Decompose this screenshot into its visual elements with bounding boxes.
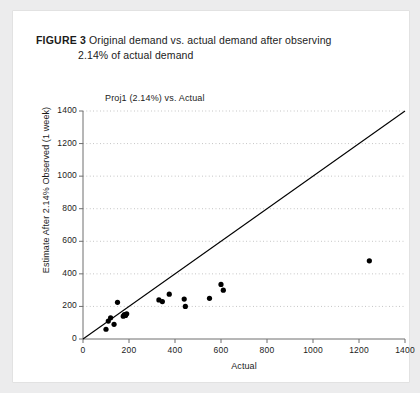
plot-svg	[83, 111, 405, 339]
data-point	[221, 288, 226, 293]
x-tick-label: 1400	[385, 345, 420, 355]
figure-caption: FIGURE 3 Original demand vs. actual dema…	[36, 33, 386, 63]
figure-caption-line2: 2.14% of actual demand	[36, 48, 386, 63]
data-point	[207, 296, 212, 301]
y-tick-label: 1000	[41, 170, 77, 180]
data-point	[115, 300, 120, 305]
data-point	[183, 304, 188, 309]
figure-number: FIGURE 3	[36, 34, 86, 46]
x-tick-label: 600	[201, 345, 241, 355]
data-point	[160, 299, 165, 304]
y-tick-label: 600	[41, 235, 77, 245]
y-tick-label: 0	[41, 333, 77, 343]
x-tick-label: 1000	[293, 345, 333, 355]
y-axis-label: Estimate After 2.14% Observed (1 week)	[41, 85, 51, 295]
data-point	[182, 297, 187, 302]
gridlines	[83, 111, 405, 306]
data-point	[167, 292, 172, 297]
y-tick-label: 200	[41, 300, 77, 310]
x-tick-label: 200	[109, 345, 149, 355]
y-tick-label: 1400	[41, 105, 77, 115]
x-axis-label: Actual	[83, 361, 405, 371]
chart-title: Proj1 (2.14%) vs. Actual	[105, 93, 205, 103]
page-background: FIGURE 3 Original demand vs. actual dema…	[0, 0, 420, 393]
data-point	[367, 258, 372, 263]
y-tick-label: 800	[41, 203, 77, 213]
x-tick-label: 800	[247, 345, 287, 355]
data-point	[111, 322, 116, 327]
x-tick-label: 1200	[339, 345, 379, 355]
plot-area	[83, 111, 405, 339]
data-point	[218, 282, 223, 287]
y-tick-label: 400	[41, 268, 77, 278]
data-point	[108, 315, 113, 320]
x-tick-label: 400	[155, 345, 195, 355]
data-points	[103, 258, 372, 332]
reference-line	[83, 111, 405, 339]
scatter-chart: Proj1 (2.14%) vs. Actual Estimate After …	[13, 73, 409, 373]
y-tick-label: 1200	[41, 138, 77, 148]
figure-caption-line1: Original demand vs. actual demand after …	[89, 34, 331, 46]
data-point	[124, 311, 129, 316]
data-point	[103, 327, 108, 332]
x-tick-label: 0	[63, 345, 103, 355]
figure-card: FIGURE 3 Original demand vs. actual dema…	[13, 11, 409, 382]
